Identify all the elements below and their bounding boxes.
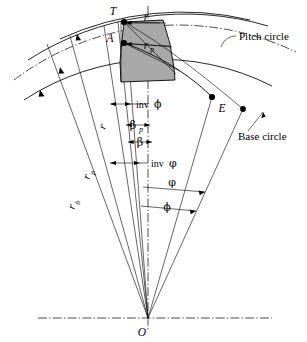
tooth-outline xyxy=(120,20,175,82)
leader-pitch-circle xyxy=(221,36,236,47)
radius-rb-sub: b xyxy=(73,199,83,206)
point-marker-base-right xyxy=(240,106,246,112)
radius-r-text: r xyxy=(96,122,109,131)
leader-base-circle xyxy=(248,112,263,131)
inv-phi-prefix: inv xyxy=(136,99,149,110)
label-tooth-r: r xyxy=(144,11,149,23)
point-marker-E xyxy=(209,94,215,100)
arrowhead-inv-phi-left xyxy=(110,102,116,106)
radius-line-right-outer xyxy=(148,109,243,318)
arrowhead-inv-varphi-right xyxy=(134,161,140,165)
label-inv-phi: inv ϕ xyxy=(136,98,162,111)
label-point-T: T xyxy=(110,5,118,17)
label-point-A: A xyxy=(105,32,114,44)
label-radius-r: r xyxy=(96,122,109,131)
point-marker-A xyxy=(121,40,127,46)
tooth-rp-sub: p xyxy=(149,45,154,54)
label-phi: ϕ xyxy=(163,201,171,214)
arrowhead-rp xyxy=(59,67,65,74)
label-point-E: E xyxy=(217,102,225,114)
inv-varphi-prefix: inv xyxy=(151,158,164,169)
label-beta: β xyxy=(137,136,143,149)
inv-varphi-symbol: φ xyxy=(169,157,177,170)
tooth-r-text: r xyxy=(144,11,149,23)
beta-symbol: β xyxy=(137,136,143,149)
arrowhead-beta-right xyxy=(146,140,152,144)
gear-geometry-figure: T A E O r r p r b r r p inv ϕ β xyxy=(0,0,307,342)
label-inv-varphi: inv φ xyxy=(151,157,177,170)
arrowhead-beta-p-right xyxy=(144,123,150,127)
varphi-symbol: φ xyxy=(168,176,176,189)
label-beta-p: β p xyxy=(130,119,143,134)
label-varphi: φ xyxy=(168,176,176,189)
arrowhead-beta-left xyxy=(128,140,134,144)
beta-p-sub: p xyxy=(138,125,143,134)
tooth-rp-text: r xyxy=(144,39,149,51)
radius-line-outer-left xyxy=(47,44,148,318)
arrowhead-phi xyxy=(190,210,196,215)
label-radius-rp: r p xyxy=(80,167,98,182)
inv-phi-symbol: ϕ xyxy=(154,98,162,111)
point-marker-T xyxy=(121,19,127,25)
arrowhead-inv-phi-right xyxy=(125,102,131,106)
label-base-circle: Base circle xyxy=(238,130,287,142)
gear-diagram-canvas: T A E O r r p r b r r p inv ϕ β xyxy=(0,0,307,342)
label-point-O: O xyxy=(138,326,147,338)
label-pitch-circle: Pitch circle xyxy=(239,30,289,42)
phi-symbol: ϕ xyxy=(163,201,171,214)
arrowhead-inv-varphi-left xyxy=(110,161,116,165)
beta-p-symbol: β xyxy=(130,119,136,132)
label-radius-rb: r b xyxy=(65,197,83,212)
